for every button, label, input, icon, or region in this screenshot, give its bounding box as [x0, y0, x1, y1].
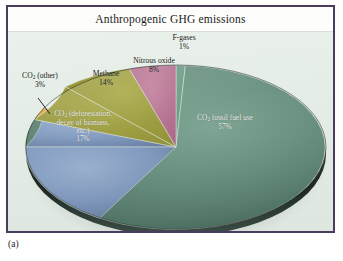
pie-surface-sheen: [26, 65, 326, 229]
figure-caption: (a): [8, 239, 19, 249]
page-title: Anthropogenic GHG emissions: [95, 13, 245, 25]
pie-chart-svg: [8, 32, 335, 232]
figure-frame: Anthropogenic GHG emissions: [6, 5, 335, 233]
chart-title-band: Anthropogenic GHG emissions: [8, 7, 333, 32]
pie-chart-plot-area: F-gases 1% Nitrous oxide 8% Methane 14% …: [8, 32, 333, 232]
